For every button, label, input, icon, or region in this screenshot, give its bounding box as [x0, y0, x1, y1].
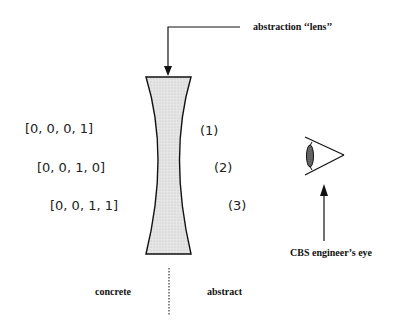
concave-lens-icon	[146, 77, 191, 254]
vector-2: [0, 0, 1, 0]	[37, 160, 105, 175]
concrete-label: concrete	[95, 286, 131, 297]
eye-label: CBS engineer’s eye	[290, 247, 373, 258]
vector-index-1: (1)	[200, 123, 218, 138]
vector-index-2: (2)	[214, 160, 232, 175]
eye-pointer-arrow	[320, 184, 328, 241]
vector-index-3: (3)	[228, 198, 246, 213]
abstraction-lens-diagram: abstraction ‘‘lens’’ [0, 0, 0, 1] (1) [0…	[0, 0, 393, 335]
lens-label: abstraction ‘‘lens’’	[253, 21, 332, 32]
vector-3: [0, 0, 1, 1]	[50, 198, 118, 213]
eye-icon	[305, 137, 344, 175]
lens-pointer-arrow	[164, 27, 240, 76]
abstract-label: abstract	[207, 286, 243, 297]
vector-1: [0, 0, 0, 1]	[25, 121, 93, 136]
